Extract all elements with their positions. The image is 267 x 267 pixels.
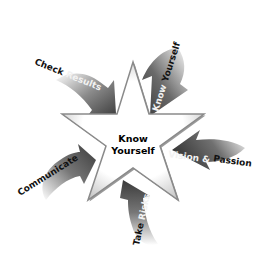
center-label-line2: Yourself	[110, 145, 155, 156]
center-label-line1: Know	[118, 133, 148, 144]
cycle-diagram: Know Yourself Know Yourself Vision & Pas…	[0, 0, 267, 267]
label-check-results: Check Results	[33, 57, 103, 93]
